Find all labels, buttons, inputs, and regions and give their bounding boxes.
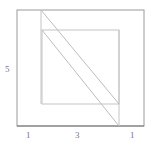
diagonal-lower xyxy=(42,30,119,126)
label-bottom-left: 1 xyxy=(26,130,31,140)
label-left-side: 5 xyxy=(5,64,10,74)
inner-square xyxy=(42,30,119,104)
diagram-canvas xyxy=(0,0,152,148)
diagonal-upper xyxy=(41,10,119,104)
label-bottom-right: 1 xyxy=(130,130,135,140)
label-bottom-middle: 3 xyxy=(75,130,80,140)
outer-square xyxy=(17,10,144,126)
